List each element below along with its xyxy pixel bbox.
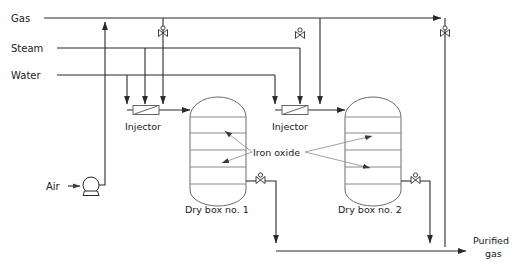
steam-branch-injector-2 — [296, 28, 305, 104]
inlet-label-water: Water — [11, 70, 41, 81]
purified-gas-label-line1: Purified — [473, 235, 509, 246]
inlet-label-steam: Steam — [11, 43, 43, 54]
air-label: Air — [46, 181, 61, 192]
dry-box-2-label: Dry box no. 2 — [338, 204, 402, 215]
dry-box-1-label: Dry box no. 1 — [185, 204, 249, 215]
iron-oxide-label: Iron oxide — [253, 147, 300, 158]
dry-box-2-outlet — [401, 173, 430, 243]
injector-2-label: Injector — [272, 121, 308, 132]
gate-valve-icon-outlet-box-2[interactable] — [411, 173, 420, 184]
dry-box-1-vessel: Dry box no. 1 — [185, 97, 249, 215]
purified-gas-outlet: Purified gas — [276, 235, 509, 259]
dry-box-1-outlet — [246, 173, 276, 243]
gate-valve-icon-outlet-box-1[interactable] — [256, 173, 265, 184]
injector-2-group: Injector — [272, 106, 345, 133]
gate-valve-icon-gas-branch-2[interactable] — [296, 28, 305, 39]
inlet-label-gas: Gas — [11, 13, 30, 24]
flow-diagram-canvas: Gas Steam Water Air — [0, 0, 526, 271]
process-flow-diagram: Gas Steam Water Air — [0, 0, 526, 271]
centrifugal-blower-icon — [83, 177, 99, 196]
purified-gas-label-line2: gas — [485, 248, 502, 259]
gas-branch-injector-1 — [159, 18, 168, 104]
dry-box-2-vessel: Dry box no. 2 — [338, 97, 402, 215]
injector-1-group: Injector — [125, 106, 190, 133]
injector-1-label: Injector — [125, 121, 161, 132]
